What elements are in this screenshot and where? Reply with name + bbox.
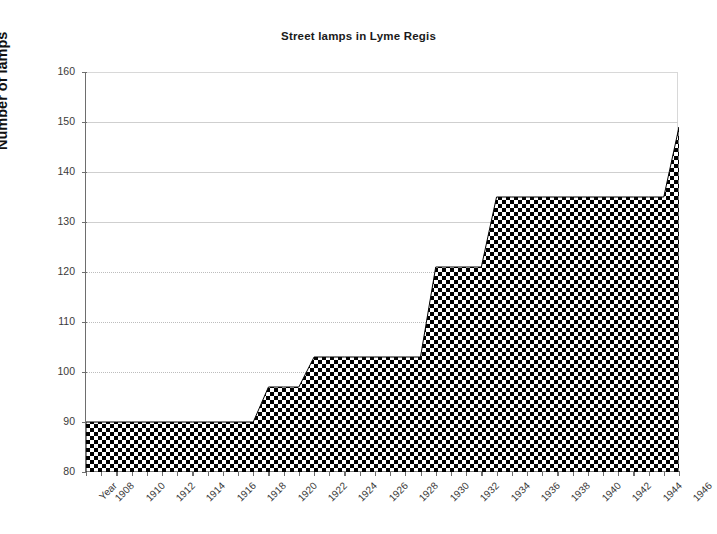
area-series xyxy=(86,72,679,472)
x-tick-label: 1926 xyxy=(386,480,410,504)
x-tick-label: 1936 xyxy=(538,480,562,504)
x-tick-label: 1912 xyxy=(174,480,198,504)
y-tick-label: 160 xyxy=(17,65,75,77)
x-tick-label: 1916 xyxy=(234,480,258,504)
x-tick-label: 1922 xyxy=(326,480,350,504)
y-tick-label: 90 xyxy=(17,415,75,427)
x-tick-label: 1924 xyxy=(356,480,380,504)
y-tick-label: 80 xyxy=(17,465,75,477)
y-tick-label: 130 xyxy=(17,215,75,227)
y-tick-label: 120 xyxy=(17,265,75,277)
y-axis-title: Number of lamps xyxy=(0,32,10,150)
x-tick-label: 1918 xyxy=(265,480,289,504)
x-tick-label: 1928 xyxy=(417,480,441,504)
x-tick-label: 1932 xyxy=(478,480,502,504)
chart-figure: Street lamps in Lyme Regis 8090100110120… xyxy=(0,0,717,534)
y-tick-label: 140 xyxy=(17,165,75,177)
area-series-path xyxy=(86,127,679,472)
x-tick-label: 1910 xyxy=(143,480,167,504)
x-tick-label: 1940 xyxy=(599,480,623,504)
y-tick-label: 110 xyxy=(17,315,75,327)
x-tick-label: 1908 xyxy=(113,480,137,504)
chart-title: Street lamps in Lyme Regis xyxy=(0,30,717,42)
plot-area xyxy=(85,72,678,472)
y-tick-label: 100 xyxy=(17,365,75,377)
x-tick-label: 1946 xyxy=(691,480,715,504)
x-tick-label: 1930 xyxy=(447,480,471,504)
x-tick-label: 1944 xyxy=(660,480,684,504)
x-tick-label: 1934 xyxy=(508,480,532,504)
x-tick-label: 1920 xyxy=(295,480,319,504)
x-tick-label: 1914 xyxy=(204,480,228,504)
x-tick-label: 1938 xyxy=(569,480,593,504)
y-tick-label: 150 xyxy=(17,115,75,127)
x-tick-mark xyxy=(679,471,680,476)
x-tick-label: 1942 xyxy=(630,480,654,504)
